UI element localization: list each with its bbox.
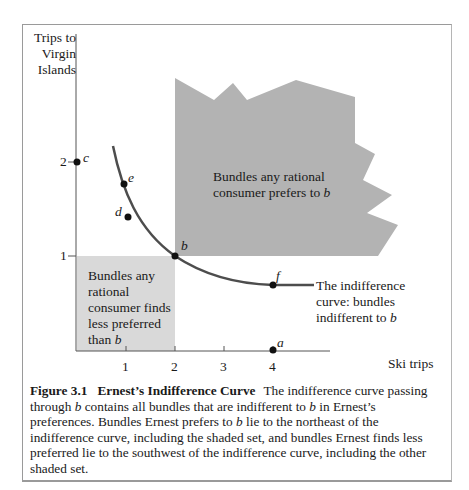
point-b (172, 253, 179, 260)
less-preferred-line-2: rational (88, 284, 173, 300)
preferred-region (175, 78, 398, 256)
less-preferred-line-5: than b (88, 332, 173, 348)
y-label-line-3: Islands (30, 62, 76, 78)
point-e (121, 181, 128, 188)
curve-label-line-3-text: indifferent to (316, 310, 390, 325)
preferred-region-label: Bundles any rational consumer prefers to… (213, 169, 373, 201)
preferred-line-2: consumer prefers to b (213, 185, 373, 201)
point-c-label: c (83, 150, 89, 166)
x-tick-1: 1 (122, 359, 129, 375)
less-preferred-line-3: consumer finds (88, 300, 173, 316)
point-d-label: d (115, 204, 122, 220)
indifference-curve-label: The indifference curve: bundles indiffer… (316, 278, 446, 326)
y-axis-label: Trips to Virgin Islands (30, 30, 76, 78)
preferred-line-1: Bundles any rational (213, 169, 373, 185)
figure-caption: Figure 3.1Ernest’s Indifference CurveThe… (30, 383, 442, 476)
curve-label-line-3: indifferent to b (316, 310, 446, 326)
less-preferred-line-5-text: than (88, 332, 115, 347)
point-b-label: b (181, 238, 188, 254)
curve-label-b: b (390, 310, 397, 325)
point-e-label: e (128, 170, 134, 186)
caption-text-2: contains all bundles that are indifferen… (81, 399, 309, 414)
figure-number: Figure 3.1 (30, 383, 87, 398)
point-d (125, 214, 132, 221)
point-c (74, 159, 81, 166)
x-axis-label: Ski trips (388, 356, 433, 372)
less-preferred-line-4: less preferred (88, 316, 173, 332)
figure-title: Ernest’s Indifference Curve (97, 383, 255, 398)
curve-label-line-1: The indifference (316, 278, 446, 294)
point-a (270, 347, 277, 354)
x-tick-3: 3 (220, 359, 227, 375)
x-tick-2: 2 (171, 359, 178, 375)
preferred-b: b (324, 185, 331, 200)
y-label-line-1: Trips to (30, 30, 76, 46)
y-tick-1: 1 (60, 248, 67, 264)
caption-b-2: b (309, 399, 316, 414)
less-preferred-line-1: Bundles any (88, 268, 173, 284)
point-f-label: f (276, 268, 280, 284)
x-tick-4: 4 (269, 359, 276, 375)
point-a-label: a (277, 335, 284, 351)
curve-label-line-2: curve: bundles (316, 294, 446, 310)
caption-b-3: b (236, 414, 243, 429)
less-preferred-region-label: Bundles any rational consumer finds less… (88, 268, 173, 348)
y-label-line-2: Virgin (30, 46, 76, 62)
less-preferred-b: b (115, 332, 122, 347)
y-tick-2: 2 (60, 154, 67, 170)
preferred-line-2-text: consumer prefers to (213, 185, 324, 200)
